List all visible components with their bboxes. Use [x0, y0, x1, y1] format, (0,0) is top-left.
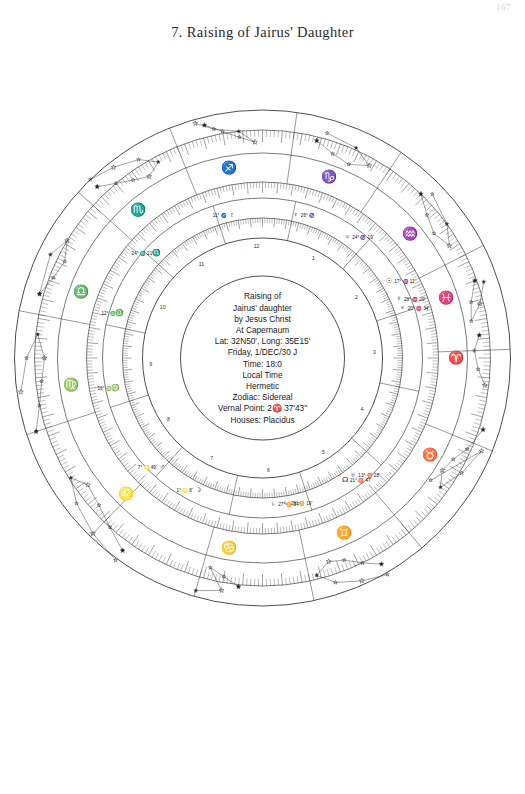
- center-info-line-10: Vernal Point: 2♈ 37'43": [218, 403, 307, 413]
- svg-text:7° ♌ 49': 7° ♌ 49': [138, 464, 157, 471]
- constellation-sagittarius: [193, 121, 258, 144]
- planet-label-mars: ♂7° ♌ 49': [138, 463, 165, 471]
- svg-text:☊: ☊: [342, 476, 348, 483]
- constellation-aquarius: [418, 191, 451, 247]
- constellation-aries: [472, 333, 487, 388]
- center-info-line-1: Jairus' daughter: [233, 303, 292, 313]
- center-info-line-6: Time: 18:0: [243, 359, 282, 369]
- planet-label-uranus: ♅13° ♉ 28': [350, 471, 380, 479]
- zodiac-glyph-sagittarius: ♐: [221, 160, 237, 175]
- planet-label-scorpio-pt: ♏24° ♏ 21': [132, 248, 162, 257]
- star-capricorn-5: [325, 131, 329, 135]
- planet-label-mercury: ☿28° ♓ 20': [396, 295, 426, 303]
- svg-text:28° ♓ 20': 28° ♓ 20': [404, 296, 426, 303]
- horoscope-wheel: ♈♉♊♋♌♍♎♏♐♑♒♓ 123456789101112 ☊21° ♉ 47'♅…: [0, 78, 525, 638]
- constellation-gemini: [315, 558, 390, 584]
- house-number-7: 7: [210, 455, 213, 461]
- zodiac-glyph-aquarius: ♒: [402, 226, 418, 241]
- star-virgo-4: [36, 332, 40, 336]
- planet-label-virgo-pt: ♍16° ♍: [97, 383, 119, 392]
- svg-text:♂: ♂: [160, 463, 165, 470]
- zodiac-glyph-libra: ♎: [73, 284, 89, 299]
- svg-text:♅: ♅: [350, 471, 355, 478]
- center-info-line-9: Zodiac: Sidereal: [233, 392, 293, 402]
- planet-label-neptune: ♆20° ♓ 34': [400, 304, 430, 312]
- svg-text:☽: ☽: [195, 486, 201, 493]
- star-scorpio-6: [111, 165, 116, 170]
- star-sagittarius-6: [193, 121, 198, 126]
- center-info-line-0: Raising of: [244, 291, 282, 301]
- star-capricorn-4: [354, 146, 358, 150]
- star-cancer-4: [194, 589, 198, 593]
- star-sagittarius-0: [202, 123, 207, 128]
- house-number-8: 8: [167, 416, 170, 422]
- house-number-10: 10: [160, 304, 166, 310]
- svg-text:12° ♎: 12° ♎: [101, 310, 115, 317]
- svg-text:♃: ♃: [344, 233, 349, 240]
- svg-text:☿: ☿: [396, 295, 401, 302]
- star-aquarius-5: [430, 192, 434, 196]
- svg-text:♆: ♆: [400, 304, 405, 311]
- horoscope-wheel-svg: ♈♉♊♋♌♍♎♏♐♑♒♓ 123456789101112 ☊21° ♉ 47'♅…: [0, 78, 525, 638]
- star-leo-4: [69, 476, 73, 480]
- house-number-1: 1: [312, 255, 315, 261]
- svg-text:24° ♑ 19': 24° ♑ 19': [352, 234, 374, 241]
- star-aries-0: [477, 333, 482, 338]
- house-number-9: 9: [149, 361, 152, 367]
- svg-text:16° ♍: 16° ♍: [97, 385, 111, 392]
- planet-label-venus: ♀26° ♑: [293, 211, 315, 219]
- constellation-leo: [69, 476, 125, 562]
- svg-text:♀: ♀: [293, 211, 298, 218]
- center-info-line-4: Lat: 32N50', Long: 35E15': [215, 336, 311, 346]
- svg-text:1° ♌ 8': 1° ♌ 8': [176, 487, 192, 494]
- svg-text:24° ♏ 21': 24° ♏ 21': [132, 250, 154, 257]
- house-number-11: 11: [199, 261, 204, 267]
- house-number-5: 5: [322, 449, 325, 455]
- star-gemini-6: [359, 578, 364, 583]
- zodiac-glyph-gemini: ♊: [336, 525, 352, 540]
- planet-label-moon: ☽1° ♌ 8': [176, 486, 200, 494]
- star-scorpio-4: [156, 160, 160, 164]
- zodiac-glyph-capricorn: ♑: [321, 169, 337, 184]
- house-number-6: 6: [267, 467, 270, 473]
- svg-text:♄: ♄: [270, 500, 275, 507]
- house-number-4: 4: [361, 406, 364, 412]
- page-root: 167 7. Raising of Jairus' Daughter ♈♉♊♋♌…: [0, 0, 525, 794]
- svg-text:17° ♒ 11': 17° ♒ 11': [394, 278, 415, 285]
- planet-label-saturn2: ♄27° ♊ 34': [270, 500, 300, 508]
- page-title: 7. Raising of Jairus' Daughter: [0, 24, 525, 41]
- center-info-line-8: Hermetic: [246, 381, 279, 391]
- star-libra-4: [48, 253, 52, 257]
- svg-text:13° ♉ 28': 13° ♉ 28': [358, 472, 380, 479]
- planet-label-pluto: ♇11° ♐: [213, 211, 235, 219]
- star-gemini-3: [326, 559, 331, 564]
- star-taurus-0: [481, 427, 486, 432]
- star-taurus-6: [479, 448, 484, 453]
- planet-label-sun: ☉17° ♒ 11': [386, 277, 415, 285]
- svg-text:26° ♑: 26° ♑: [301, 212, 315, 219]
- planet-label-jupiter: ♃24° ♑ 19': [344, 233, 374, 241]
- svg-text:11° ♐: 11° ♐: [213, 212, 227, 219]
- star-gemini-0: [379, 562, 384, 567]
- zodiac-glyph-leo: ♌: [118, 486, 134, 501]
- zodiac-glyph-cancer: ♋: [221, 540, 237, 555]
- center-info-line-2: by Jesus Christ: [234, 314, 291, 324]
- house-number-3: 3: [373, 349, 376, 355]
- star-pisces-4: [482, 280, 486, 284]
- svg-text:21° ♉ 47': 21° ♉ 47': [350, 477, 372, 484]
- planet-label-libra-pt: ♎12° ♎: [101, 308, 123, 317]
- center-info-line-5: Friday, 1/DEC/30 J: [228, 347, 297, 357]
- svg-text:27° ♊ 34': 27° ♊ 34': [278, 501, 300, 508]
- star-virgo-0: [34, 429, 39, 434]
- zodiac-glyph-virgo: ♍: [63, 377, 79, 392]
- center-info-line-7: Local Time: [242, 370, 283, 380]
- svg-text:♇: ♇: [229, 211, 234, 218]
- center-info-line-11: Houses: Placidus: [230, 415, 294, 425]
- zodiac-glyph-taurus: ♉: [422, 447, 438, 462]
- center-info-line-3: At Capernaum: [236, 325, 290, 335]
- house-number-12: 12: [254, 243, 260, 249]
- constellation-cancer: [194, 566, 241, 593]
- zodiac-glyph-aries: ♈: [448, 350, 464, 365]
- star-leo-0: [120, 548, 125, 553]
- star-leo-3: [85, 482, 90, 487]
